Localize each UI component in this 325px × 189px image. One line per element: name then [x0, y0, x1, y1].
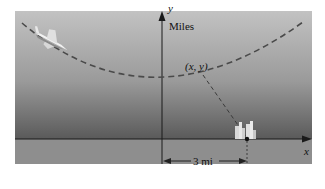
ground-background	[15, 139, 312, 164]
sky-background	[15, 11, 312, 139]
target-point	[245, 137, 249, 141]
y-axis-units: Miles	[169, 21, 194, 32]
flight-path-diagram	[0, 0, 325, 189]
x-axis-label: x	[304, 146, 309, 157]
distance-label: 3 mi	[193, 156, 213, 167]
y-axis-label: y	[168, 3, 173, 14]
point-label: (x, y)	[185, 61, 208, 72]
